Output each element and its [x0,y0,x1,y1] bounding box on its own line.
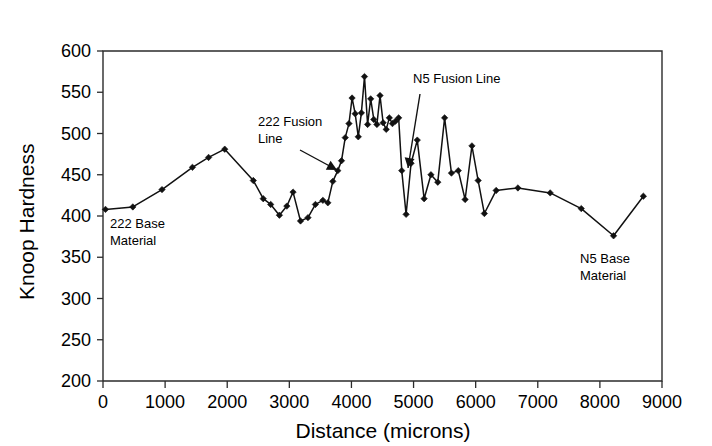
x-tick-label: 9000 [642,392,682,412]
plot-frame [103,51,662,381]
x-tick-label: 3000 [269,392,309,412]
x-tick-label: 4000 [331,392,371,412]
data-point-marker [493,187,499,193]
ann-n5-base-line2: Material [580,268,626,283]
y-tick-label: 550 [61,82,91,102]
data-point-marker [475,177,481,183]
data-point-marker [515,185,521,191]
data-point-marker [361,73,367,79]
chart-container: 200250300350400450500550600 010002000300… [0,0,712,446]
data-point-marker [469,143,475,149]
x-tick-label: 1000 [145,392,185,412]
data-point-marker [455,167,461,173]
y-axis-ticks [97,51,103,381]
x-tick-label: 6000 [456,392,496,412]
ann-n5-base: N5 BaseMaterial [580,251,630,283]
data-point-marker [547,190,553,196]
data-point-marker [462,196,468,202]
ann-n5-fusion-line1: N5 Fusion Line [413,71,500,86]
y-axis-title: Knoop Hardness [15,144,38,300]
data-point-marker [421,195,427,201]
x-tick-label: 7000 [518,392,558,412]
x-axis-title: Distance (microns) [295,419,470,442]
x-axis-tick-labels: 0100020003000400050006000700080009000 [98,392,682,412]
x-tick-label: 8000 [580,392,620,412]
y-tick-label: 200 [61,371,91,391]
y-tick-label: 300 [61,289,91,309]
ann-n5-fusion-leader-line [408,94,420,168]
data-point-marker [386,115,392,121]
data-point-marker [399,167,405,173]
ann-222-fusion: 222 FusionLine [258,114,337,170]
data-point-marker [414,137,420,143]
axis-frame [103,51,662,381]
x-tick-label: 0 [98,392,108,412]
data-point-marker [355,134,361,140]
data-point-marker [380,120,386,126]
ann-222-base-line2: Material [110,233,156,248]
data-point-marker [349,95,355,101]
data-point-marker [383,126,389,132]
data-series-markers [102,73,646,239]
y-tick-label: 600 [61,41,91,61]
data-point-marker [330,178,336,184]
data-point-marker [346,120,352,126]
y-axis-tick-labels: 200250300350400450500550600 [61,41,91,391]
y-tick-label: 450 [61,165,91,185]
data-point-marker [448,170,454,176]
data-series-line [105,77,643,236]
data-point-marker [481,210,487,216]
data-point-marker [342,134,348,140]
x-axis-ticks [103,381,662,388]
ann-222-base: 222 BaseMaterial [110,216,165,248]
data-point-marker [358,110,364,116]
data-point-marker [367,96,373,102]
data-point-marker [297,218,303,224]
x-tick-label: 5000 [394,392,434,412]
y-tick-label: 400 [61,206,91,226]
data-point-marker [305,214,311,220]
data-point-marker [364,121,370,127]
x-tick-label: 2000 [207,392,247,412]
data-point-marker [338,158,344,164]
data-point-marker [130,204,136,210]
data-point-marker [377,92,383,98]
ann-222-fusion-line1: 222 Fusion [258,114,322,129]
data-point-marker [403,211,409,217]
data-point-marker [441,115,447,121]
ann-222-base-line1: 222 Base [110,216,165,231]
y-tick-label: 500 [61,124,91,144]
data-point-marker [352,111,358,117]
data-point-marker [290,189,296,195]
ann-n5-base-line1: N5 Base [580,251,630,266]
knoop-hardness-line-chart: 200250300350400450500550600 010002000300… [0,0,712,446]
y-tick-label: 250 [61,330,91,350]
y-tick-label: 350 [61,247,91,267]
data-point-marker [312,201,318,207]
ann-222-fusion-line2: Line [258,131,283,146]
